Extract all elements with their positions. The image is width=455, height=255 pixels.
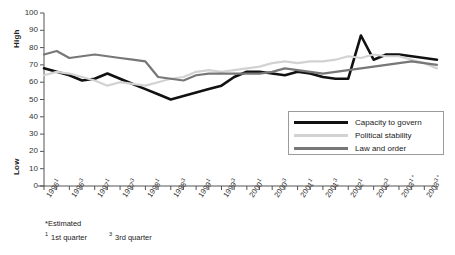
legend-item-political-stability: Political stability	[294, 129, 438, 142]
legend-swatch-political-stability	[294, 134, 348, 136]
line-chart: High Low 0102030405060708090100 19961199…	[0, 0, 455, 255]
chart-footnotes: *Estimated 11st quarter33rd quarter	[45, 218, 152, 243]
legend-label-political-stability: Political stability	[355, 131, 411, 140]
footnote-quarters: 11st quarter33rd quarter	[45, 229, 152, 243]
series-line-capacity-to-govern	[44, 35, 437, 99]
legend-label-capacity-to-govern: Capacity to govern	[355, 118, 422, 127]
legend-swatch-capacity-to-govern	[294, 121, 348, 124]
legend-item-capacity-to-govern: Capacity to govern	[294, 116, 438, 129]
footnote-q1-superscript: 1	[45, 231, 48, 237]
footnote-q3-text: 3rd quarter	[115, 233, 152, 242]
footnote-q1-text: 1st quarter	[51, 233, 87, 242]
chart-legend: Capacity to govern Political stability L…	[288, 111, 444, 155]
legend-label-law-and-order: Law and order	[355, 144, 406, 153]
footnote-estimated: *Estimated	[45, 218, 152, 229]
footnote-q3-superscript: 3	[109, 231, 112, 237]
legend-swatch-law-and-order	[294, 147, 348, 149]
legend-item-law-and-order: Law and order	[294, 142, 438, 155]
